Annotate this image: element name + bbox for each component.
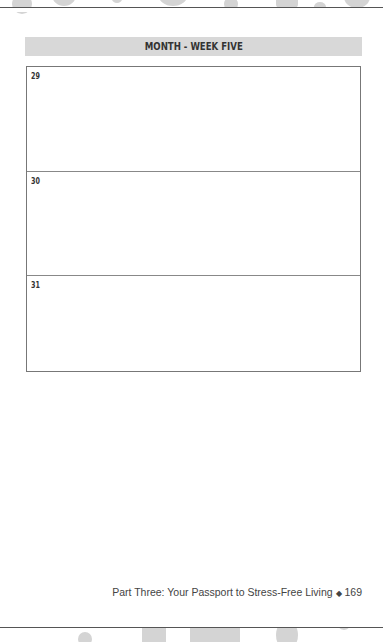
day-number: 29	[31, 72, 40, 81]
bottom-rule	[0, 627, 383, 628]
diamond-separator-icon: ◆	[336, 589, 342, 598]
page-footer: Part Three: Your Passport to Stress-Free…	[112, 586, 362, 598]
week-header-banner: MONTH - WEEK FIVE	[25, 37, 362, 56]
day-planner: 29 30 31	[26, 66, 361, 372]
day-number: 31	[31, 281, 40, 290]
footer-text: Part Three: Your Passport to Stress-Free…	[112, 586, 332, 598]
day-number: 30	[31, 177, 40, 186]
day-block-30[interactable]: 30	[27, 171, 360, 275]
day-block-29[interactable]: 29	[27, 67, 360, 171]
day-block-31[interactable]: 31	[27, 275, 360, 372]
week-title: MONTH - WEEK FIVE	[145, 40, 243, 53]
top-rule	[0, 7, 383, 8]
page-number: 169	[344, 586, 362, 598]
